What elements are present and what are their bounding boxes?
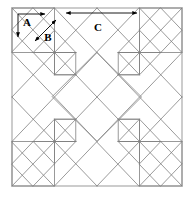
label-b: B [44, 31, 52, 43]
figure-root: A B C [0, 0, 195, 198]
label-c: C [94, 21, 102, 33]
label-a: A [23, 16, 31, 28]
quilt-pattern-diagram: A B C [0, 0, 195, 198]
